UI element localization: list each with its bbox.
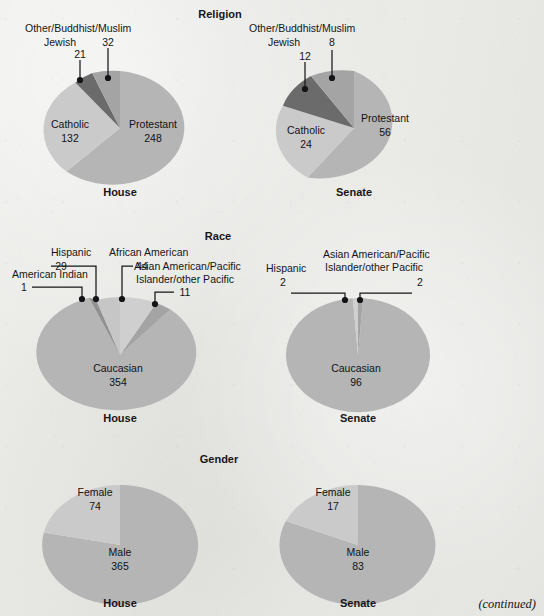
label-catholic-senate-value: 24 <box>300 138 312 150</box>
label-other-buddhist-muslim-senate-value: 8 <box>329 36 335 48</box>
leader-dot-american-indian-house <box>79 296 85 302</box>
caption-religion-house: House <box>103 186 137 198</box>
pie-religion-house <box>44 48 185 185</box>
label-caucasian-house-name: Caucasian <box>93 362 143 374</box>
leader-dot-jewish-senate <box>302 86 308 92</box>
pie-race-senate <box>286 293 430 412</box>
pie-gender-house <box>42 485 198 605</box>
section-title-race: Race <box>205 230 231 242</box>
label-female-house-name: Female <box>77 486 112 498</box>
leader-dot-hispanic-house <box>93 296 99 302</box>
leader-line-hispanic-senate <box>291 293 345 300</box>
section-title-religion: Religion <box>198 8 242 20</box>
label-jewish-senate-name: Jewish <box>268 36 300 48</box>
pie-race-house <box>32 266 196 410</box>
label-male-senate-name: Male <box>347 546 370 558</box>
label-female-house-value: 74 <box>89 500 101 512</box>
label-other-buddhist-muslim-house-value: 32 <box>102 36 114 48</box>
label-female-senate-value: 17 <box>327 500 339 512</box>
label-jewish-senate-value: 12 <box>299 50 311 62</box>
leader-dot-african-american-house <box>119 296 125 302</box>
caption-gender-house: House <box>103 597 137 609</box>
caption-race-house: House <box>103 412 137 424</box>
label-protestant-house-value: 248 <box>144 132 162 144</box>
label-american-indian-house-name: American Indian <box>12 268 88 280</box>
label-asian-pacific-house-name-line2: Islander/other Pacific <box>136 273 234 285</box>
label-protestant-senate-name: Protestant <box>361 112 409 124</box>
caption-race-senate: Senate <box>340 412 376 424</box>
leader-dot-hispanic-senate <box>342 297 348 303</box>
label-other-buddhist-muslim-house-name: Other/Buddhist/Muslim <box>25 22 131 34</box>
label-african-american-house-name: African American <box>109 246 189 258</box>
label-protestant-senate-value: 56 <box>379 126 391 138</box>
pie-gender-senate <box>279 485 435 605</box>
label-asian-pacific-house-name-line1: Asian American/Pacific <box>134 260 241 272</box>
label-catholic-senate-name: Catholic <box>287 124 325 136</box>
caption-religion-senate: Senate <box>336 186 372 198</box>
label-male-house-value: 365 <box>111 560 129 572</box>
label-caucasian-senate-value: 96 <box>350 376 362 388</box>
label-asian-pacific-senate-value: 2 <box>417 276 423 288</box>
label-protestant-house-name: Protestant <box>129 118 177 130</box>
caption-gender-senate: Senate <box>340 597 376 609</box>
label-jewish-house-name: Jewish <box>44 36 76 48</box>
label-catholic-house-name: Catholic <box>51 118 89 130</box>
label-hispanic-senate-name: Hispanic <box>266 262 306 274</box>
leader-dot-asian-pacific-senate <box>357 297 363 303</box>
continued-note: (continued) <box>478 597 536 611</box>
pie-chart-figure: Religion Other/Buddhist/Muslim 32 Jewish… <box>0 0 544 616</box>
label-catholic-house-value: 132 <box>61 132 79 144</box>
label-asian-pacific-house-value: 11 <box>180 286 191 298</box>
leader-dot-jewish-house <box>77 77 83 83</box>
label-asian-pacific-senate-name-line1: Asian American/Pacific <box>323 248 430 260</box>
figure-page: Religion Other/Buddhist/Muslim 32 Jewish… <box>0 0 544 616</box>
label-hispanic-house-name: Hispanic <box>51 246 91 258</box>
leader-line-african-american-house <box>122 266 133 299</box>
label-male-senate-value: 83 <box>352 560 364 572</box>
label-hispanic-senate-value: 2 <box>280 276 286 288</box>
leader-dot-other-house <box>105 75 111 81</box>
label-jewish-house-value: 21 <box>74 48 86 60</box>
label-male-house-name: Male <box>109 546 132 558</box>
label-american-indian-house-value: 1 <box>21 281 27 293</box>
label-caucasian-senate-name: Caucasian <box>331 362 381 374</box>
leader-dot-asian-pacific-house <box>152 301 158 307</box>
label-asian-pacific-senate-name-line2: Islander/other Pacific <box>325 261 423 273</box>
leader-dot-other-senate <box>329 75 335 81</box>
label-other-buddhist-muslim-senate-name: Other/Buddhist/Muslim <box>249 22 355 34</box>
label-caucasian-house-value: 354 <box>109 376 127 388</box>
section-title-gender: Gender <box>200 453 239 465</box>
leader-line-asian-pacific-house <box>155 292 174 304</box>
leader-line-american-indian-house <box>32 287 82 299</box>
label-female-senate-name: Female <box>315 486 350 498</box>
